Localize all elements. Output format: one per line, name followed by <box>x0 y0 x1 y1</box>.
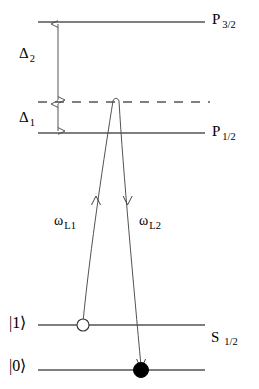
laser-arrowhead-wL2-down <box>123 196 132 205</box>
laser-label-wL2: ωL2 <box>139 214 161 232</box>
term-subscript-p12: 1/2 <box>220 131 235 142</box>
laser-symbol-wL2: ω <box>139 213 148 228</box>
detuning-subscript-delta2: 2 <box>29 53 35 64</box>
ket-label-state1: |1⟩ <box>9 315 26 331</box>
laser-transition-wL2 <box>119 101 141 366</box>
term-label-p12: P1/2 <box>212 124 236 142</box>
laser-symbol-wL1: ω <box>54 213 63 228</box>
population-marker-open-circle <box>77 319 89 331</box>
energy-level-diagram: P3/2 P1/2 S1/2 Δ2 Δ1 ωL1 ωL2 |1⟩ |0⟩ <box>0 0 259 389</box>
detuning-symbol-delta2: Δ <box>19 45 29 61</box>
detuning-symbol-delta1: Δ <box>19 109 29 125</box>
term-subscript-p32: 3/2 <box>220 19 235 30</box>
detuning-subscript-delta1: 1 <box>29 117 35 128</box>
laser-apex-link <box>113 98 119 101</box>
term-label-s12: S1/2 <box>211 330 238 348</box>
population-marker-filled-circle <box>134 363 149 378</box>
detuning-label-delta1: Δ1 <box>19 110 35 129</box>
laser-label-wL1: ωL1 <box>54 214 76 232</box>
detuning-label-delta2: Δ2 <box>19 46 35 65</box>
ket-label-state0: |0⟩ <box>9 358 26 374</box>
term-label-p32: P3/2 <box>212 12 236 30</box>
term-subscript-s12: 1/2 <box>219 336 237 347</box>
laser-arrowhead-wL1-up <box>92 196 101 205</box>
laser-subscript-wL2: L2 <box>148 220 161 231</box>
laser-transition-wL1 <box>83 101 113 322</box>
laser-subscript-wL1: L1 <box>63 220 76 231</box>
